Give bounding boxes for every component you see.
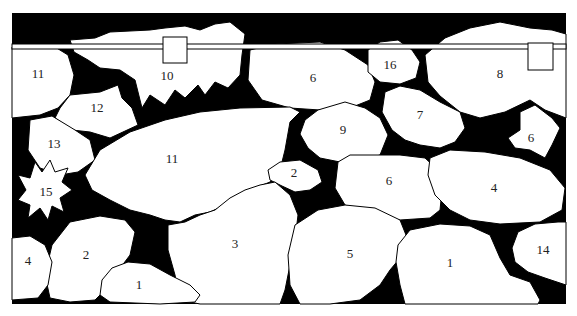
stone-label: 11 xyxy=(32,66,45,81)
stone-label: 11 xyxy=(166,151,179,166)
rail-marker-right xyxy=(528,43,553,70)
stone-label: 1 xyxy=(136,277,143,292)
stone-label: 2 xyxy=(83,247,90,262)
rail-bar xyxy=(12,44,566,49)
stone-label: 1 xyxy=(447,255,454,270)
stone-label: 3 xyxy=(232,236,239,251)
stone-label: 15 xyxy=(40,184,53,199)
stone-label: 7 xyxy=(417,107,424,122)
stone-label: 14 xyxy=(537,242,551,257)
stone-label: 10 xyxy=(161,68,174,83)
rail-marker-left xyxy=(163,37,187,63)
stone-label: 12 xyxy=(91,100,104,115)
stone-label: 16 xyxy=(384,57,398,72)
stone-label: 13 xyxy=(48,136,61,151)
stone-label: 6 xyxy=(310,70,317,85)
stone-wall-diagram: 111061681279613112641532514411 xyxy=(0,0,577,316)
stone-label: 9 xyxy=(340,122,347,137)
stone-label: 2 xyxy=(291,165,298,180)
stone-label: 8 xyxy=(497,66,504,81)
stone-label: 5 xyxy=(347,246,354,261)
stone-label: 6 xyxy=(386,173,393,188)
stone-label: 6 xyxy=(528,130,535,145)
stone-label: 4 xyxy=(491,180,498,195)
stones xyxy=(12,22,566,304)
stone-label: 4 xyxy=(25,253,32,268)
